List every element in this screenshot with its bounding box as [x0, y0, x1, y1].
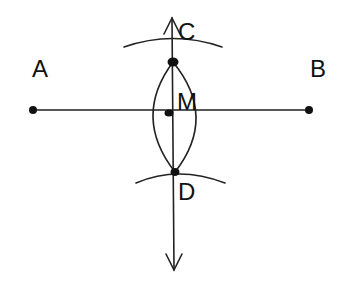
label-b: B: [310, 55, 326, 82]
perpendicular-bisector-line: [172, 18, 174, 270]
point-a: [29, 106, 37, 114]
label-c: C: [178, 18, 195, 45]
right-lens-arc: [173, 62, 196, 172]
point-c: [168, 58, 179, 67]
label-m: M: [177, 88, 197, 115]
point-m: [165, 110, 174, 117]
label-a: A: [32, 55, 48, 82]
point-d: [171, 168, 180, 176]
point-b: [305, 106, 313, 114]
geometry-diagram: A B C M D: [0, 0, 339, 284]
label-d: D: [178, 178, 195, 205]
